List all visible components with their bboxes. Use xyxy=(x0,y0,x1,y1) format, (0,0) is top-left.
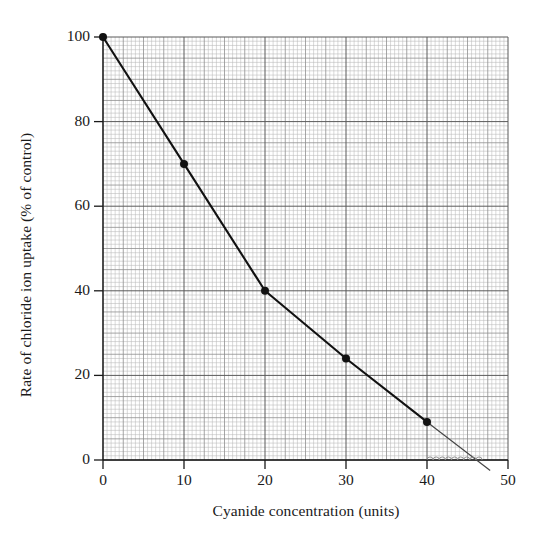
x-tick-label: 20 xyxy=(235,471,295,489)
x-tick-label: 0 xyxy=(73,471,133,489)
x-tick-label: 10 xyxy=(154,471,214,489)
x-tick-label: 30 xyxy=(316,471,376,489)
y-tick-label: 40 xyxy=(45,281,90,299)
y-tick-label: 80 xyxy=(45,112,90,130)
extrapolation-line xyxy=(427,422,490,471)
x-tick-label: 50 xyxy=(478,471,538,489)
x-tick-label: 40 xyxy=(397,471,457,489)
figure-canvas: Rate of chloride ion uptake (% of contro… xyxy=(0,0,541,547)
y-tick-label: 100 xyxy=(45,27,90,45)
y-tick-label: 0 xyxy=(45,450,90,468)
grid-mid-lines xyxy=(103,37,508,460)
y-tick-label: 60 xyxy=(45,196,90,214)
y-tick-label: 20 xyxy=(45,365,90,383)
